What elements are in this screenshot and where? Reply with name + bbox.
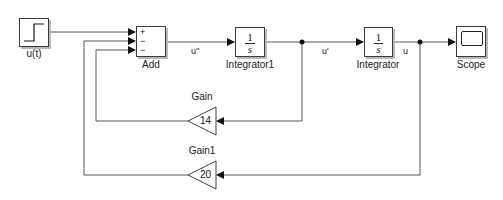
simulink-canvas: u(t) + − − Add 1 s Integrator1 1 s Integ… (0, 0, 503, 200)
branch-point-u (418, 40, 423, 45)
gain-value[interactable]: 14 (200, 115, 211, 126)
step-icon (20, 19, 48, 46)
add-sign-3: − (140, 46, 145, 55)
signal-label-u: u (403, 46, 408, 56)
scope-block[interactable] (456, 26, 486, 57)
gain1-label: Gain1 (189, 145, 216, 156)
signal-label-u-double-prime: u'' (191, 46, 199, 56)
branch-point-u-prime (300, 40, 305, 45)
integrator-block[interactable]: 1 s (364, 27, 393, 57)
integrator1-denominator: s (236, 43, 264, 55)
gain1-value[interactable]: 20 (200, 169, 211, 180)
line-gain1-to-add (84, 41, 188, 175)
integrator1-numerator: 1 (236, 31, 264, 43)
integrator1-label: Integrator1 (226, 59, 274, 70)
signal-label-u-prime: u' (322, 46, 329, 56)
integrator-numerator: 1 (365, 31, 392, 43)
integrator-label: Integrator (357, 59, 400, 70)
scope-screen-icon (461, 31, 483, 46)
integrator-denominator: s (365, 43, 392, 55)
add-block[interactable]: + − − (136, 26, 166, 57)
gain-label: Gain (191, 91, 212, 102)
scope-label: Scope (457, 59, 485, 70)
step-block[interactable] (19, 18, 49, 47)
add-label: Add (142, 59, 160, 70)
integrator1-block[interactable]: 1 s (235, 27, 265, 57)
step-label: u(t) (27, 48, 42, 59)
